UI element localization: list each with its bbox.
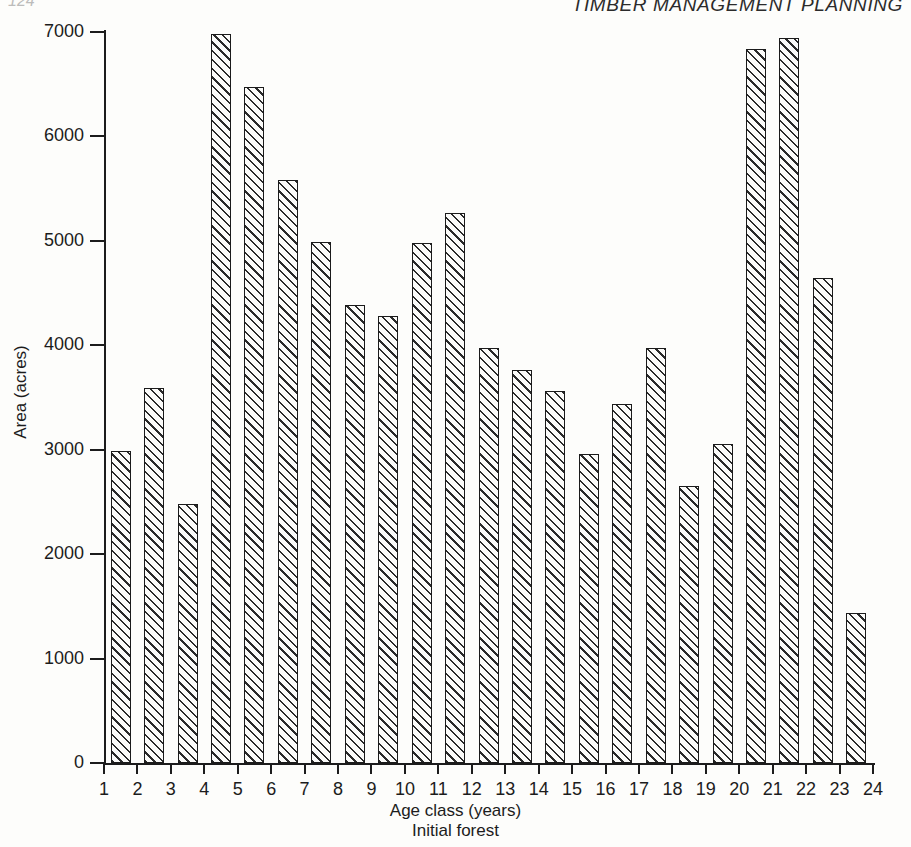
y-axis-tick-label: 2000 bbox=[18, 544, 84, 562]
bar bbox=[479, 348, 499, 763]
y-axis-tick-label-text: 6000 bbox=[22, 126, 84, 144]
x-axis-title: Age class (years) bbox=[0, 801, 911, 821]
y-axis-tick-label-text: 3000 bbox=[22, 440, 84, 458]
y-axis-tick-label-text: 1000 bbox=[22, 649, 84, 667]
x-axis-tick bbox=[404, 763, 406, 774]
figure-caption: Initial forest bbox=[0, 821, 911, 841]
x-axis-tick bbox=[671, 763, 673, 774]
bar bbox=[679, 486, 699, 763]
x-axis-tick bbox=[103, 763, 105, 774]
x-axis-tick bbox=[504, 763, 506, 774]
x-axis-tick bbox=[437, 763, 439, 774]
x-axis-tick bbox=[471, 763, 473, 774]
x-axis-tick bbox=[805, 763, 807, 774]
y-axis-tick-label-text: 0 bbox=[22, 753, 84, 771]
x-axis-tick bbox=[370, 763, 372, 774]
y-axis-tick bbox=[90, 31, 106, 33]
y-axis-tick-label: 0 bbox=[18, 753, 84, 771]
y-axis-line bbox=[104, 30, 106, 765]
x-axis-tick bbox=[337, 763, 339, 774]
bar bbox=[412, 243, 432, 763]
bar bbox=[445, 213, 465, 763]
y-axis-tick bbox=[90, 658, 106, 660]
x-axis-tick bbox=[705, 763, 707, 774]
x-axis-tick bbox=[605, 763, 607, 774]
y-axis-tick-label: 6000 bbox=[18, 126, 84, 144]
x-axis-tick bbox=[237, 763, 239, 774]
x-axis-tick bbox=[738, 763, 740, 774]
y-axis-tick-label-text: 7000 bbox=[22, 22, 84, 40]
y-axis-tick-label: 5000 bbox=[18, 231, 84, 249]
bar bbox=[579, 454, 599, 763]
bar bbox=[813, 278, 833, 763]
bar-chart-figure: 01000200030004000500060007000 1234567891… bbox=[0, 0, 911, 847]
y-axis-tick-label: 7000 bbox=[18, 22, 84, 40]
y-axis-title: Area (acres) bbox=[11, 327, 31, 457]
y-axis-tick-label-text: 5000 bbox=[22, 231, 84, 249]
bar bbox=[746, 49, 766, 763]
bar bbox=[378, 316, 398, 763]
bar bbox=[178, 504, 198, 763]
y-axis-tick bbox=[90, 553, 106, 555]
y-axis-tick-label-text: 4000 bbox=[22, 335, 84, 353]
x-axis-tick bbox=[839, 763, 841, 774]
x-axis-tick bbox=[772, 763, 774, 774]
figure-page: 124 TIMBER MANAGEMENT PLANNING 010002000… bbox=[0, 0, 911, 847]
x-axis-tick bbox=[203, 763, 205, 774]
y-axis-tick bbox=[90, 344, 106, 346]
y-axis-tick-label: 1000 bbox=[18, 649, 84, 667]
bar bbox=[345, 305, 365, 763]
y-axis-tick bbox=[90, 240, 106, 242]
x-axis-tick bbox=[571, 763, 573, 774]
bar bbox=[111, 451, 131, 763]
y-axis-tick bbox=[90, 449, 106, 451]
bar bbox=[512, 370, 532, 763]
bar bbox=[779, 38, 799, 763]
bar bbox=[646, 348, 666, 763]
x-axis-tick bbox=[872, 763, 874, 774]
bar bbox=[713, 444, 733, 763]
x-axis-line bbox=[104, 763, 875, 765]
x-axis-tick-label: 24 bbox=[853, 779, 893, 799]
x-axis-tick bbox=[170, 763, 172, 774]
bar bbox=[278, 180, 298, 763]
x-axis-tick bbox=[270, 763, 272, 774]
bar bbox=[144, 388, 164, 763]
x-axis-tick bbox=[136, 763, 138, 774]
x-axis-tick bbox=[638, 763, 640, 774]
y-axis-tick bbox=[90, 135, 106, 137]
bar bbox=[545, 391, 565, 763]
bar bbox=[311, 242, 331, 763]
x-axis-tick bbox=[538, 763, 540, 774]
x-axis-tick bbox=[304, 763, 306, 774]
bar bbox=[846, 613, 866, 763]
bar bbox=[244, 87, 264, 763]
bar bbox=[612, 404, 632, 763]
y-axis-tick-label-text: 2000 bbox=[22, 544, 84, 562]
bar bbox=[211, 34, 231, 763]
